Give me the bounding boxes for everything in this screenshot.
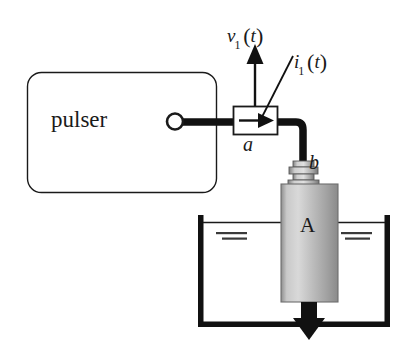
water-ripple-marks-right	[341, 232, 372, 240]
transducer-body-shape	[281, 184, 338, 302]
current-label: i1 (t)	[294, 50, 327, 75]
transducer-label: A	[300, 215, 315, 236]
voltage-label: v1 (t)	[227, 24, 263, 49]
diagram-svg	[0, 0, 411, 349]
cable-segment-right	[275, 122, 303, 163]
node-a-label: a	[243, 134, 253, 154]
water-ripple-marks-left	[216, 232, 247, 240]
acoustic-beam-arrow-icon	[293, 302, 325, 340]
voltage-measurement-arrow-icon	[247, 44, 264, 106]
voltage-subscript: 1	[234, 38, 240, 52]
pulser-label: pulser	[51, 108, 107, 131]
current-subscript: 1	[298, 64, 304, 78]
node-b-label: b	[309, 152, 319, 172]
pulser-box	[28, 73, 217, 193]
current-argument: t	[314, 51, 319, 72]
output-terminal-icon	[167, 114, 183, 130]
figure-canvas: pulser a b A v1 (t) i1 (t)	[0, 0, 411, 349]
